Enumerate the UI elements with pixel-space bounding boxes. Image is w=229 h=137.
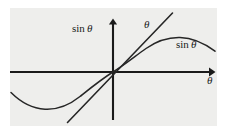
y-axis-arrow-icon	[109, 19, 117, 25]
y-axis-label-function: sin	[72, 22, 87, 34]
y-axis-label-variable: θ	[87, 22, 92, 34]
y-axis-label: sin θ	[72, 23, 92, 34]
x-axis-label: θ	[207, 75, 212, 86]
sine-curve-label-variable: θ	[191, 38, 196, 50]
figure-root: sin θ θ θ sin θ	[0, 0, 229, 137]
plot-canvas	[0, 0, 229, 137]
x-axis-label-variable: θ	[207, 74, 212, 86]
sine-curve-label-function: sin	[176, 38, 191, 50]
sine-curve-label: sin θ	[176, 39, 196, 50]
straight-line-label: θ	[144, 19, 149, 30]
straight-line-label-variable: θ	[144, 18, 149, 30]
